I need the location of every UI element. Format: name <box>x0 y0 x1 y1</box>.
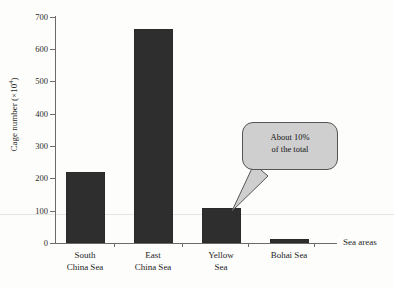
y-tick-label-200: 200 <box>22 174 48 183</box>
x-axis-line <box>55 243 337 244</box>
cat-line-2: China Sea <box>47 262 123 274</box>
y-axis-line <box>55 16 56 244</box>
cat-line-1: Yellow <box>183 250 259 262</box>
y-axis-title-close: ) <box>9 78 19 81</box>
bar-bohai-sea <box>270 239 309 243</box>
y-tick-700 <box>50 17 55 18</box>
cat-line-1: South <box>47 250 123 262</box>
x-tick-4 <box>314 243 315 247</box>
y-tick-label-700: 700 <box>22 13 48 22</box>
cat-line-2: Sea <box>183 262 259 274</box>
x-tick-2 <box>182 243 183 247</box>
y-tick-400 <box>50 114 55 115</box>
y-axis-title-base: Cage number (×10 <box>9 84 19 152</box>
callout-line-2: of the total <box>242 143 338 155</box>
y-tick-label-0: 0 <box>22 239 48 248</box>
y-tick-label-600: 600 <box>22 45 48 54</box>
callout-text: About 10% of the total <box>242 131 338 155</box>
y-tick-200 <box>50 178 55 179</box>
x-category-label-bohai-sea: Bohai Sea <box>251 250 327 262</box>
annotation-callout: About 10% of the total <box>232 122 342 220</box>
bar-east-china-sea <box>134 29 173 243</box>
x-tick-3 <box>248 243 249 247</box>
cat-line-2: China Sea <box>115 262 191 274</box>
x-category-label-east-china-sea: East China Sea <box>115 250 191 273</box>
plot-area: 0 100 200 300 400 500 600 700 About 10% … <box>0 0 394 288</box>
bar-south-china-sea <box>66 172 105 243</box>
y-tick-label-300: 300 <box>22 142 48 151</box>
x-category-label-yellow-sea: Yellow Sea <box>183 250 259 273</box>
cat-line-1: Bohai Sea <box>251 250 327 262</box>
y-tick-label-100: 100 <box>22 207 48 216</box>
y-tick-label-500: 500 <box>22 77 48 86</box>
y-axis-title: Cage number (×104) <box>6 55 19 175</box>
y-tick-100 <box>50 211 55 212</box>
y-tick-0 <box>50 243 55 244</box>
chart-figure: 0 100 200 300 400 500 600 700 About 10% … <box>0 0 394 288</box>
y-tick-600 <box>50 49 55 50</box>
callout-line-1: About 10% <box>242 131 338 143</box>
x-axis-title: Sea areas <box>343 237 377 247</box>
x-tick-1 <box>114 243 115 247</box>
y-tick-500 <box>50 81 55 82</box>
x-category-label-south-china-sea: South China Sea <box>47 250 123 273</box>
y-tick-300 <box>50 146 55 147</box>
cat-line-1: East <box>115 250 191 262</box>
y-axis-title-exponent: 4 <box>7 81 14 84</box>
y-tick-label-400: 400 <box>22 110 48 119</box>
